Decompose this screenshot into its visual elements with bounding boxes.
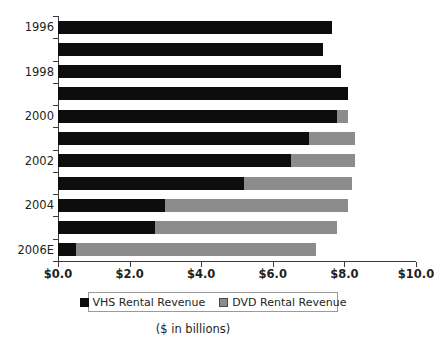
rental-revenue-chart: 199619982000200220042006E $0.0$2.0$4.0$6… xyxy=(0,0,446,352)
bar-segment-vhs xyxy=(58,243,76,256)
bar-row xyxy=(58,43,323,56)
bar-segment-vhs xyxy=(58,65,341,78)
y-axis-label: 2004 xyxy=(0,199,54,211)
footnote-text: ($ in billions) xyxy=(156,322,230,336)
y-axis-label: 2000 xyxy=(0,110,54,122)
bar-row xyxy=(58,110,348,123)
vhs-swatch-icon xyxy=(80,298,89,307)
legend-label-dvd: DVD Rental Revenue xyxy=(232,296,346,309)
bar-row xyxy=(58,243,316,256)
y-axis-label: 1996 xyxy=(0,21,54,33)
x-axis-tick-label: $4.0 xyxy=(171,267,231,281)
bar-row xyxy=(58,21,332,34)
y-axis-labels: 199619982000200220042006E xyxy=(0,0,54,352)
y-axis-label: 1998 xyxy=(0,66,54,78)
x-axis-tick-label: $10.0 xyxy=(386,267,446,281)
bar-segment-vhs xyxy=(58,21,332,34)
legend-item-dvd: DVD Rental Revenue xyxy=(219,296,346,309)
legend-label-vhs: VHS Rental Revenue xyxy=(93,296,206,309)
bar-segment-dvd xyxy=(76,243,316,256)
chart-footnote: ($ in billions) xyxy=(0,322,446,336)
bar-segment-dvd xyxy=(155,221,338,234)
x-axis-tick-label: $6.0 xyxy=(243,267,303,281)
bar-segment-dvd xyxy=(165,199,348,212)
bar-segment-dvd xyxy=(291,154,355,167)
legend-item-vhs: VHS Rental Revenue xyxy=(80,296,206,309)
bar-segment-vhs xyxy=(58,110,337,123)
x-axis-tick-label: $2.0 xyxy=(100,267,160,281)
bar-row xyxy=(58,199,348,212)
chart-legend: VHS Rental Revenue DVD Rental Revenue xyxy=(88,292,338,312)
bar-segment-vhs xyxy=(58,177,244,190)
bar-segment-dvd xyxy=(337,110,348,123)
bar-segment-vhs xyxy=(58,221,155,234)
bar-row xyxy=(58,65,341,78)
x-axis-tick-label: $8.0 xyxy=(314,267,374,281)
bar-segment-vhs xyxy=(58,87,348,100)
bar-segment-vhs xyxy=(58,154,291,167)
bar-segment-dvd xyxy=(244,177,351,190)
y-axis-label: 2006E xyxy=(0,244,54,256)
dvd-swatch-icon xyxy=(219,298,228,307)
bar-row xyxy=(58,87,348,100)
bar-segment-vhs xyxy=(58,43,323,56)
bar-segment-vhs xyxy=(58,132,309,145)
bars-area xyxy=(58,16,416,262)
bar-row xyxy=(58,221,337,234)
bar-row xyxy=(58,177,352,190)
bar-row xyxy=(58,154,355,167)
bar-row xyxy=(58,132,355,145)
bar-segment-dvd xyxy=(309,132,356,145)
bar-segment-vhs xyxy=(58,199,165,212)
x-axis-tick-label: $0.0 xyxy=(28,267,88,281)
y-axis-label: 2002 xyxy=(0,155,54,167)
